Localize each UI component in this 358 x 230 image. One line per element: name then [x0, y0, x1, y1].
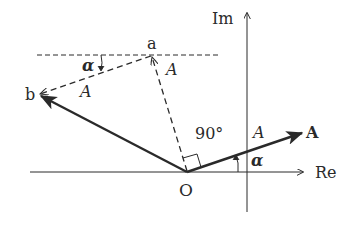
phasor-angle-label: α — [251, 151, 263, 170]
phasor-magnitude-label: A — [251, 123, 265, 142]
phasor-Ob — [41, 96, 187, 172]
phasor-label: A — [305, 123, 319, 142]
dashed-segment-ab — [40, 56, 151, 94]
angle-arc-top-arrowhead — [98, 66, 104, 71]
right-angle-marker — [183, 154, 201, 167]
origin-label: O — [179, 180, 193, 200]
point-a-label: a — [147, 34, 157, 53]
right-angle-label: 90° — [195, 124, 223, 143]
imaginary-axis-label: Im — [212, 9, 234, 28]
ab-magnitude-label: A — [78, 82, 92, 101]
ab-angle-label: α — [82, 56, 94, 75]
real-axis-label: Re — [315, 163, 337, 182]
Oa-magnitude-label: A — [164, 60, 178, 79]
phasor-diagram: Re Im a b O A A α 90° A A α — [0, 0, 358, 230]
point-b-label: b — [25, 85, 35, 104]
